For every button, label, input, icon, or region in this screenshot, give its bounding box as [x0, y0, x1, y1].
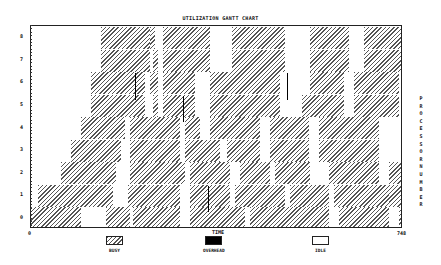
- busy-bar: [310, 27, 350, 49]
- y-minor-tick: [30, 221, 32, 222]
- legend-busy-label: BUSY: [109, 248, 120, 253]
- y-minor-tick: [30, 147, 32, 148]
- busy-bar: [91, 72, 146, 94]
- busy-bar: [91, 95, 146, 117]
- y-minor-tick: [30, 49, 32, 50]
- busy-bar: [275, 162, 310, 184]
- busy-bar: [399, 207, 402, 228]
- y-tick-label: 8: [20, 33, 23, 39]
- busy-bar: [232, 27, 284, 49]
- y-minor-tick: [30, 157, 32, 158]
- y-minor-tick: [30, 127, 32, 128]
- busy-bar: [310, 72, 345, 94]
- busy-bar: [329, 162, 379, 184]
- busy-bar: [210, 72, 280, 94]
- y-minor-tick: [30, 177, 32, 178]
- y-minor-tick: [30, 79, 32, 80]
- busy-bar: [402, 140, 403, 162]
- overhead-mark: [135, 73, 136, 100]
- legend-overhead: OVERHEAD: [203, 236, 225, 253]
- y-tick-label: 5: [20, 101, 23, 107]
- y-minor-tick: [30, 181, 32, 182]
- busy-bar: [185, 117, 200, 139]
- y-minor-tick: [30, 170, 32, 171]
- y-minor-tick: [30, 133, 32, 134]
- busy-bar: [319, 140, 379, 162]
- y-minor-tick: [30, 93, 32, 94]
- y-tick-label: 6: [20, 78, 23, 84]
- y-minor-tick: [30, 35, 32, 36]
- busy-bar: [354, 72, 399, 94]
- y-minor-tick: [30, 123, 32, 124]
- y-tick-label: 7: [20, 56, 23, 62]
- busy-bar: [163, 50, 210, 72]
- busy-bar: [227, 140, 259, 162]
- y-tick-label: 1: [20, 191, 23, 197]
- busy-bar: [163, 72, 195, 94]
- y-minor-tick: [30, 72, 32, 73]
- x-tick-end: 748: [397, 230, 406, 236]
- idle-swatch-icon: [312, 236, 329, 245]
- busy-bar: [190, 162, 230, 184]
- busy-bar: [232, 50, 284, 72]
- legend-overhead-label: OVERHEAD: [203, 248, 225, 253]
- y-minor-tick: [30, 86, 32, 87]
- y-minor-tick: [30, 89, 32, 90]
- legend-idle-label: IDLE: [315, 248, 326, 253]
- y-minor-tick: [30, 137, 32, 138]
- y-minor-tick: [30, 99, 32, 100]
- busy-bar: [38, 185, 113, 207]
- busy-bar: [128, 185, 180, 207]
- busy-bar: [270, 140, 310, 162]
- overhead-swatch-icon: [205, 236, 222, 245]
- x-tick-start: 0: [28, 230, 31, 236]
- gantt-plot-area: [30, 25, 402, 228]
- busy-bar: [81, 117, 126, 139]
- y-minor-tick: [30, 32, 32, 33]
- busy-bar: [130, 162, 185, 184]
- y-minor-tick: [30, 218, 32, 219]
- busy-bar: [163, 27, 210, 49]
- busy-bar: [61, 162, 116, 184]
- legend-busy: BUSY: [106, 236, 123, 253]
- busy-bar: [354, 95, 399, 117]
- busy-bar: [106, 207, 131, 228]
- y-minor-tick: [30, 76, 32, 77]
- y-minor-tick: [30, 59, 32, 60]
- overhead-mark: [183, 96, 184, 123]
- y-minor-tick: [30, 116, 32, 117]
- busy-bar: [130, 140, 180, 162]
- x-axis-title: TIME: [212, 229, 224, 235]
- y-minor-tick: [30, 198, 32, 199]
- y-minor-tick: [30, 69, 32, 70]
- y-minor-tick: [30, 83, 32, 84]
- y-minor-tick: [30, 113, 32, 114]
- y-minor-tick: [30, 103, 32, 104]
- y-minor-tick: [30, 214, 32, 215]
- busy-bar: [190, 185, 230, 207]
- y-minor-tick: [30, 66, 32, 67]
- busy-bar: [153, 95, 158, 117]
- y-tick-label: 2: [20, 169, 23, 175]
- y-minor-tick: [30, 106, 32, 107]
- y-minor-tick: [30, 187, 32, 188]
- y-minor-tick: [30, 96, 32, 97]
- overhead-mark: [208, 186, 209, 213]
- y-minor-tick: [30, 191, 32, 192]
- y-minor-tick: [30, 204, 32, 205]
- busy-bar: [235, 185, 285, 207]
- overhead-mark: [287, 73, 288, 100]
- y-minor-tick: [30, 130, 32, 131]
- busy-bar: [190, 207, 245, 228]
- y-axis-title: PROCESSOR NUMBER: [418, 95, 424, 209]
- y-minor-tick: [30, 140, 32, 141]
- y-minor-tick: [30, 208, 32, 209]
- busy-bar: [153, 50, 158, 72]
- busy-bar: [310, 50, 350, 72]
- busy-bar: [334, 185, 389, 207]
- y-minor-tick: [30, 110, 32, 111]
- y-minor-tick: [30, 194, 32, 195]
- busy-bar: [130, 117, 180, 139]
- busy-bar: [339, 207, 389, 228]
- y-minor-tick: [30, 164, 32, 165]
